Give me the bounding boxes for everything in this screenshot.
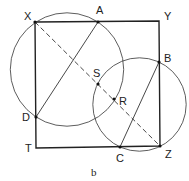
point-A [96, 20, 99, 23]
label-R: R [119, 95, 127, 107]
label-D: D [22, 111, 30, 123]
label-C: C [116, 152, 124, 164]
point-S [96, 82, 99, 85]
chord-AD [36, 22, 98, 117]
point-Z [158, 144, 161, 147]
figure-caption: b [91, 166, 97, 178]
point-R [112, 97, 115, 100]
geometry-diagram: X A Y B S R D T C Z b [0, 0, 189, 181]
label-B: B [164, 52, 171, 64]
point-X [33, 20, 36, 23]
label-Y: Y [164, 10, 172, 22]
point-D [34, 115, 37, 118]
label-A: A [96, 4, 104, 16]
point-C [118, 145, 121, 148]
label-T: T [25, 142, 32, 154]
point-B [157, 60, 160, 63]
label-Z: Z [165, 148, 172, 160]
label-S: S [93, 67, 100, 79]
label-X: X [24, 10, 32, 22]
